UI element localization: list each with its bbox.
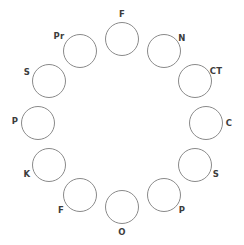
node-label: P [12, 117, 18, 126]
node-circle [63, 34, 97, 68]
node-circle [105, 22, 139, 56]
node-circle [147, 178, 181, 212]
node-label: K [24, 170, 31, 179]
node-label: CT [210, 67, 222, 76]
node-circle [147, 34, 181, 68]
ring-diagram: FNCTCSPOFKPSPr [0, 0, 244, 245]
node-label: S [24, 68, 30, 77]
node-label: P [179, 206, 185, 215]
node-circle [63, 178, 97, 212]
node-label: O [118, 228, 125, 237]
node-label: F [119, 10, 125, 19]
node-label: Pr [54, 32, 65, 41]
node-circle [178, 64, 212, 98]
node-label: F [58, 206, 64, 215]
node-circle [178, 148, 212, 182]
node-circle [189, 106, 223, 140]
node-label: C [226, 119, 232, 128]
node-circle [32, 148, 66, 182]
node-circle [105, 190, 139, 224]
node-circle [32, 64, 66, 98]
node-label: N [178, 34, 185, 43]
node-circle [21, 106, 55, 140]
node-label: S [213, 170, 219, 179]
